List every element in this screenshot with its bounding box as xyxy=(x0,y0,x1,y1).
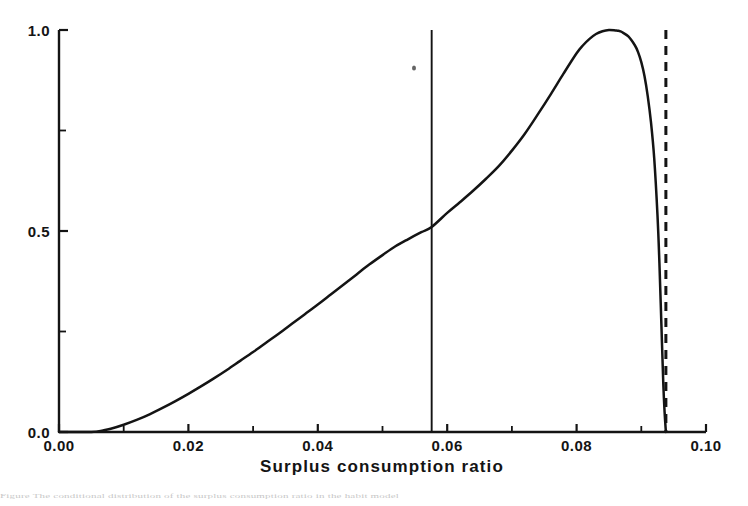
x-tick-label: 0.10 xyxy=(690,437,721,454)
chart-canvas: 0.000.020.040.060.080.10 0.00.51.0 Surpl… xyxy=(0,0,748,506)
x-tick-label: 0.06 xyxy=(432,437,463,454)
scan-speck-artifact xyxy=(412,65,416,70)
y-tick-label: 0.0 xyxy=(28,424,50,441)
x-tick-label: 0.04 xyxy=(302,437,333,454)
y-tick-label: 1.0 xyxy=(28,22,50,39)
y-axis-tick-labels: 0.00.51.0 xyxy=(28,22,50,441)
x-axis-tick-labels: 0.000.020.040.060.080.10 xyxy=(43,437,721,454)
density-curve xyxy=(59,30,666,432)
page-footer-fragment: Figure The conditional distribution of t… xyxy=(0,492,748,506)
x-axis-title: Surplus consumption ratio xyxy=(260,457,504,476)
annotation-lines xyxy=(432,30,666,432)
footer-fragment-text: Figure The conditional distribution of t… xyxy=(0,492,748,499)
x-tick-label: 0.02 xyxy=(173,437,204,454)
x-tick-label: 0.08 xyxy=(561,437,592,454)
axes-spines xyxy=(59,30,706,432)
y-axis-ticks xyxy=(59,30,68,432)
figure-container: 0.000.020.040.060.080.10 0.00.51.0 Surpl… xyxy=(0,0,748,506)
y-tick-label: 0.5 xyxy=(28,223,50,240)
